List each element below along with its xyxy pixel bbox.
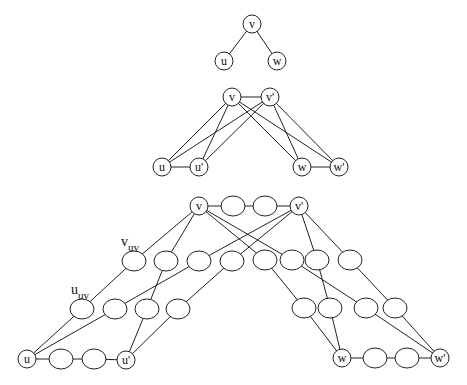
annotation-v-uv: vuv <box>121 234 140 253</box>
node-subdivided-r5 <box>253 250 277 270</box>
nodes-layer: vuwvv'uu'ww'vv'uu'ww' <box>18 15 449 369</box>
node-label: v <box>196 199 202 213</box>
node-subdivided-c2 <box>395 348 419 368</box>
node-doubled-v2: v' <box>261 88 279 106</box>
node-subdivided-s1 <box>70 299 94 319</box>
node-subdivided-c1 <box>363 348 387 368</box>
node-label: w <box>273 54 282 68</box>
node-subdivided-r4 <box>220 251 244 271</box>
node-subdivided-s8 <box>383 298 407 318</box>
node-original-u: u <box>215 52 233 70</box>
node-label: u' <box>122 353 130 367</box>
node-subdivided-r3 <box>187 251 211 271</box>
node-doubled-u2: u' <box>190 158 208 176</box>
node-subdivided-r7 <box>305 250 329 270</box>
node-label: u <box>221 54 227 68</box>
node-subdivided-s7 <box>354 298 378 318</box>
node-subdivided-r2 <box>154 251 178 271</box>
node-label: v' <box>295 199 303 213</box>
node-subdivided-r1 <box>122 251 146 271</box>
node-subdivided-r6 <box>280 250 304 270</box>
node-subdivided-w: w <box>333 349 351 367</box>
node-label: w' <box>435 351 446 365</box>
node-subdivided-u2: u' <box>117 351 135 369</box>
node-label: w' <box>334 160 345 174</box>
node-label: w <box>338 351 347 365</box>
node-subdivided-v2: v' <box>290 197 308 215</box>
annotation-u-uv: uuv <box>71 282 90 301</box>
edge-subdivided-v-r6 <box>199 206 292 260</box>
node-subdivided-s3 <box>135 299 159 319</box>
node-subdivided-w2: w' <box>431 349 449 367</box>
edge-doubled-v-w <box>232 97 302 167</box>
node-subdivided-s2 <box>103 299 127 319</box>
node-subdivided-b1 <box>49 349 73 369</box>
node-subdivided-v: v <box>190 197 208 215</box>
edge-doubled-v2-u <box>162 97 270 167</box>
node-label: u' <box>195 160 203 174</box>
edge-doubled-v-u <box>162 97 232 167</box>
node-original-v: v <box>243 15 261 33</box>
node-subdivided-s6 <box>318 298 342 318</box>
node-subdivided-b2 <box>82 349 106 369</box>
node-label: v <box>229 90 235 104</box>
node-doubled-u: u <box>153 158 171 176</box>
node-subdivided-a1 <box>221 196 245 216</box>
node-label: v' <box>266 90 274 104</box>
node-subdivided-s5 <box>292 298 316 318</box>
node-doubled-w2: w' <box>330 158 348 176</box>
edge-doubled-v2-u2 <box>199 97 270 167</box>
node-original-w: w <box>268 52 286 70</box>
node-label: u <box>159 160 165 174</box>
edge-doubled-v2-w2 <box>270 97 339 167</box>
node-subdivided-u: u <box>18 350 36 368</box>
node-label: u <box>24 352 30 366</box>
node-label: w <box>298 160 307 174</box>
node-doubled-v: v <box>223 88 241 106</box>
graph-diagram: vuwvv'uu'ww'vv'uu'ww' vuvuuv <box>0 0 467 385</box>
edge-doubled-v2-w <box>270 97 302 167</box>
node-subdivided-s4 <box>166 299 190 319</box>
node-subdivided-a2 <box>253 196 277 216</box>
node-label: v <box>249 17 255 31</box>
node-doubled-w: w <box>293 158 311 176</box>
node-subdivided-r8 <box>338 250 362 270</box>
